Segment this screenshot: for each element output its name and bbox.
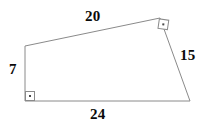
quadrilateral-shape (25, 18, 190, 101)
side-label-bottom: 24 (90, 107, 105, 122)
side-label-left: 7 (9, 62, 17, 77)
side-label-right: 15 (180, 48, 195, 63)
right-angle-marker-bottom-left (26, 92, 35, 101)
side-label-top: 20 (85, 9, 100, 24)
geometry-figure: 20 15 24 7 (0, 0, 206, 127)
